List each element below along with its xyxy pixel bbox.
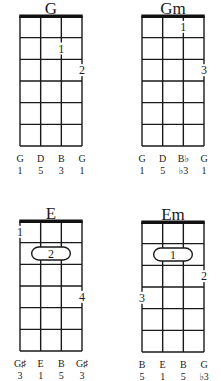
interval-label: 5 bbox=[156, 165, 170, 177]
interval-label: 1 bbox=[156, 371, 170, 381]
note-label: G bbox=[13, 153, 27, 165]
note-label: G bbox=[197, 153, 211, 165]
interval-label: 1 bbox=[197, 165, 211, 177]
note-label: B bbox=[135, 359, 149, 371]
finger-number: 2 bbox=[48, 247, 54, 261]
finger-number: 1 bbox=[58, 42, 64, 56]
chord-diagram-g: G12GDBG1531 bbox=[1, 0, 101, 190]
note-label: G♯ bbox=[13, 358, 27, 370]
interval-label: 5 bbox=[34, 165, 48, 177]
interval-label: 1 bbox=[34, 370, 48, 381]
note-label: G bbox=[75, 153, 89, 165]
interval-label: 1 bbox=[75, 165, 89, 177]
note-label: G♯ bbox=[75, 358, 89, 370]
nut bbox=[141, 15, 204, 19]
chord-diagram-gm: Gm13GDB♭G15♭31 bbox=[123, 0, 221, 190]
note-label: D bbox=[156, 153, 170, 165]
note-label: B bbox=[54, 153, 68, 165]
interval-label: 5 bbox=[176, 371, 190, 381]
finger-number: 1 bbox=[170, 248, 176, 262]
finger-number: 2 bbox=[79, 63, 85, 77]
note-label: B bbox=[54, 358, 68, 370]
chord-diagram-e: E124G♯EBG♯3153 bbox=[1, 205, 101, 381]
note-label: E bbox=[156, 359, 170, 371]
finger-number: 3 bbox=[139, 291, 145, 305]
nut bbox=[19, 15, 82, 19]
note-label: G bbox=[135, 153, 149, 165]
note-label: E bbox=[34, 358, 48, 370]
nut bbox=[141, 221, 204, 225]
interval-label: 1 bbox=[135, 165, 149, 177]
finger-number: 3 bbox=[201, 63, 207, 77]
finger-number: 1 bbox=[17, 225, 23, 239]
note-label: G bbox=[197, 359, 211, 371]
interval-label: ♭3 bbox=[176, 165, 190, 177]
note-label: D bbox=[34, 153, 48, 165]
interval-label: 5 bbox=[135, 371, 149, 381]
fretboard-grid: 13 bbox=[123, 0, 221, 150]
interval-label: 1 bbox=[13, 165, 27, 177]
finger-number: 4 bbox=[79, 290, 85, 304]
interval-label: 5 bbox=[54, 370, 68, 381]
interval-label: 3 bbox=[75, 370, 89, 381]
fretboard-grid: 123 bbox=[123, 206, 221, 356]
finger-number: 1 bbox=[180, 20, 186, 34]
note-label: B bbox=[176, 359, 190, 371]
finger-number: 2 bbox=[201, 269, 207, 283]
interval-label: 3 bbox=[54, 165, 68, 177]
interval-label: 3 bbox=[13, 370, 27, 381]
fretboard-grid: 12 bbox=[1, 0, 101, 150]
nut bbox=[19, 220, 82, 224]
interval-label: ♭3 bbox=[197, 371, 211, 381]
note-label: B♭ bbox=[176, 153, 190, 165]
chord-diagram-em: Em123BEBG515♭3 bbox=[123, 206, 221, 381]
fretboard-grid: 124 bbox=[1, 205, 101, 355]
